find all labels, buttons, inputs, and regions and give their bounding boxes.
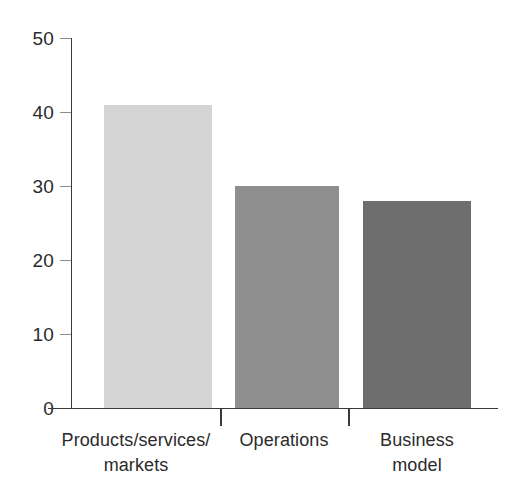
bar-products-services-markets[interactable] (104, 105, 212, 408)
x-label-operations: Operations (224, 428, 344, 453)
x-label-line-2: markets (56, 453, 216, 478)
x-label-line-2: model (357, 453, 477, 478)
x-label-products-services-markets: Products/services/ markets (56, 428, 216, 478)
x-label-line-1: Business (357, 428, 477, 453)
bar-operations[interactable] (235, 186, 339, 408)
x-label-line-1: Products/services/ (56, 428, 216, 453)
x-axis-line (48, 408, 498, 409)
category-separator-1 (220, 409, 222, 426)
x-label-business-model: Business model (357, 428, 477, 478)
category-separator-2 (348, 409, 350, 426)
bar-chart: 50 40 30 20 10 0 Products/services/ mark… (0, 0, 521, 503)
x-label-line-1: Operations (224, 428, 344, 453)
bar-business-model[interactable] (363, 201, 471, 408)
